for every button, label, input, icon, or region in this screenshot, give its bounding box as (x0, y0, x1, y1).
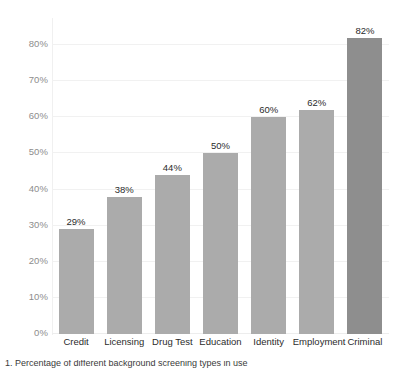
y-axis-tick-label: 70% (4, 75, 48, 85)
y-axis-tick-label: 30% (4, 220, 48, 230)
bar-value-label: 44% (143, 162, 202, 173)
bar-slot: 29% (59, 18, 94, 335)
x-axis-category-labels: CreditLicensingDrug TestEducationIdentit… (52, 336, 389, 350)
bar[interactable] (59, 229, 94, 334)
bar-series: 29%38%44%50%60%62%82% (52, 18, 389, 335)
x-axis-category-label: Licensing (100, 336, 148, 348)
x-axis-category-label: Credit (52, 336, 100, 348)
bar-value-label: 29% (47, 216, 106, 227)
y-axis-tick-label: 40% (4, 184, 48, 194)
x-axis-category-label: Education (196, 336, 244, 348)
figure-caption-cropped: 1. Percentage of different background sc… (0, 360, 395, 372)
bar-chart-figure: 0%10%20%30%40%50%60%70%80% 29%38%44%50%6… (0, 0, 395, 372)
x-axis-category-label: Identity (245, 336, 293, 348)
x-axis-category-label: Employment (293, 336, 341, 348)
bar-slot: 62% (299, 18, 334, 335)
bar-slot: 44% (155, 18, 190, 335)
y-axis-tick-label: 10% (4, 292, 48, 302)
bar[interactable] (107, 197, 142, 334)
bar-slot: 50% (203, 18, 238, 335)
y-axis-tick-label: 0% (4, 328, 48, 338)
y-axis-tick-label: 20% (4, 256, 48, 266)
bar[interactable] (251, 117, 286, 334)
bar[interactable] (299, 110, 334, 334)
figure-caption-text: 1. Percentage of different background sc… (5, 360, 248, 369)
y-axis-tick-labels: 0%10%20%30%40%50%60%70%80% (0, 18, 48, 335)
bar-value-label: 62% (287, 97, 346, 108)
bar[interactable] (347, 38, 382, 334)
bar-slot: 82% (347, 18, 382, 335)
x-axis-category-label: Drug Test (148, 336, 196, 348)
x-axis-category-label: Criminal (341, 336, 389, 348)
bar[interactable] (155, 175, 190, 334)
bar-slot: 60% (251, 18, 286, 335)
bar[interactable] (203, 153, 238, 334)
bar-slot: 38% (107, 18, 142, 335)
y-axis-tick-label: 80% (4, 39, 48, 49)
y-axis-tick-label: 50% (4, 147, 48, 157)
y-axis-tick-label: 60% (4, 111, 48, 121)
bar-value-label: 50% (191, 140, 250, 151)
bar-value-label: 38% (95, 184, 154, 195)
bar-value-label: 82% (335, 25, 394, 36)
